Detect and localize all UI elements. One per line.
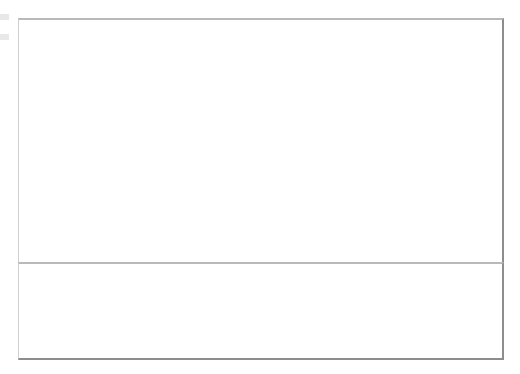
figure-root (0, 0, 520, 374)
top-chart-svg (18, 18, 504, 263)
bottom-chart-svg (18, 262, 504, 360)
left-edge-mark-upper (0, 14, 9, 20)
left-edge-mark-lower (0, 34, 9, 40)
